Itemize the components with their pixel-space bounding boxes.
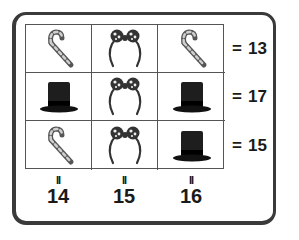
grid-cell (26, 73, 92, 121)
grid-cell (92, 121, 158, 170)
row-sum-3: = 15 (232, 136, 267, 156)
row-sum-2: = 17 (232, 87, 267, 107)
vertical-equals-sign: II (171, 175, 211, 185)
bow-headband-icon (105, 76, 145, 118)
bow-headband-icon (105, 125, 145, 167)
grid-cell (158, 121, 225, 170)
column-sum-2: II 15 (104, 175, 144, 207)
equals-sign: = (232, 87, 242, 107)
top-hat-icon (171, 80, 213, 114)
puzzle-grid (25, 24, 224, 169)
column-sum-value: 16 (171, 185, 211, 207)
column-sum-3: II 16 (171, 175, 211, 207)
grid-cell (158, 73, 225, 121)
equals-sign: = (232, 136, 242, 156)
candy-cane-icon (174, 29, 210, 69)
grid-cell (26, 25, 92, 73)
candy-cane-icon (41, 29, 77, 69)
grid-cell (92, 25, 158, 73)
equals-sign: = (232, 39, 242, 59)
grid-cell (92, 73, 158, 121)
column-sum-1: II 14 (38, 175, 78, 207)
top-hat-icon (38, 80, 80, 114)
column-sum-value: 14 (38, 185, 78, 207)
bow-headband-icon (105, 28, 145, 70)
grid-cell (158, 25, 225, 73)
row-sum-1: = 13 (232, 39, 267, 59)
row-sum-value: 17 (248, 87, 267, 107)
grid-cell (26, 121, 92, 170)
candy-cane-icon (41, 126, 77, 166)
vertical-equals-sign: II (38, 175, 78, 185)
column-sum-value: 15 (104, 185, 144, 207)
vertical-equals-sign: II (104, 175, 144, 185)
row-sum-value: 13 (248, 39, 267, 59)
row-sum-value: 15 (248, 136, 267, 156)
top-hat-icon (171, 129, 213, 163)
